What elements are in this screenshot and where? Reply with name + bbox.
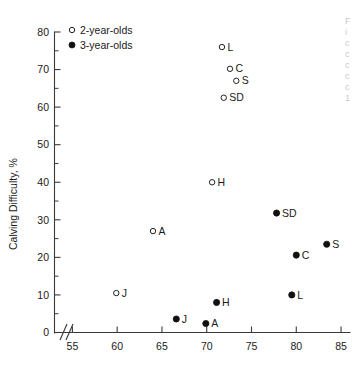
point-3-year-olds-H [213,299,219,305]
calving-difficulty-scatter-chart: 01020304050607080 55606570758085 Calving… [0,0,358,378]
point-label-3-year-olds-L: L [297,289,303,301]
point-2-year-olds-L [219,44,224,49]
x-tick-label-80: 80 [290,340,302,352]
point-label-2-year-olds-L: L [227,41,233,53]
y-tick-label-70: 70 [37,63,49,75]
y-tick-label-60: 60 [37,101,49,113]
y-axis-ticks: 01020304050607080 [37,26,60,339]
point-2-year-olds-C [227,66,232,71]
y-tick-label-20: 20 [37,251,49,263]
point-3-year-olds-S [324,241,330,247]
point-2-year-olds-H [209,180,214,185]
point-label-2-year-olds-J: J [122,287,127,299]
point-label-2-year-olds-SD: SD [229,91,244,103]
point-label-3-year-olds-J: J [182,313,187,325]
series-3-year-olds: SDSCLHJA [173,207,339,329]
y-tick-label-40: 40 [37,176,49,188]
x-tick-label-75: 75 [246,340,258,352]
point-3-year-olds-L [289,292,295,298]
point-2-year-olds-SD [221,95,226,100]
x-tick-label-55: 55 [67,340,79,352]
adjacent-figure-edge-artifact: Ficcccc1 [345,16,357,108]
series-2-year-olds: LCSSDHAJ [114,41,249,299]
scatter-plot-figure: 01020304050607080 55606570758085 Calving… [0,0,358,378]
x-tick-label-70: 70 [201,340,213,352]
point-2-year-olds-S [234,78,239,83]
point-label-3-year-olds-H: H [222,296,230,308]
point-label-2-year-olds-S: S [242,74,249,86]
point-label-2-year-olds-A: A [159,225,166,237]
point-2-year-olds-J [114,290,119,295]
x-axis [55,324,351,340]
y-axis-title: Calving Difficulty, % [7,158,19,250]
point-3-year-olds-J [173,316,179,322]
legend-label-2: 3-year-olds [80,39,133,51]
x-tick-label-60: 60 [111,340,123,352]
point-label-3-year-olds-SD: SD [282,207,297,219]
x-axis-ticks: 55606570758085 [67,327,347,353]
x-tick-label-65: 65 [156,340,168,352]
legend-label-1: 2-year-olds [80,24,133,36]
y-tick-label-50: 50 [37,138,49,150]
point-label-3-year-olds-C: C [302,249,310,261]
y-tick-label-30: 30 [37,214,49,226]
legend-marker-2 [69,42,75,48]
point-3-year-olds-A [203,320,209,326]
point-3-year-olds-C [293,252,299,258]
y-tick-label-80: 80 [37,26,49,38]
point-label-3-year-olds-A: A [211,317,218,329]
y-tick-label-0: 0 [43,326,49,338]
point-label-3-year-olds-S: S [332,238,339,250]
data-series-layer: LCSSDHAJSDSCLHJA [114,41,340,329]
legend-marker-1 [69,27,74,32]
y-tick-label-10: 10 [37,289,49,301]
point-label-2-year-olds-C: C [236,62,244,74]
chart-legend: 2-year-olds3-year-olds [69,24,133,51]
point-3-year-olds-SD [273,210,279,216]
point-label-2-year-olds-H: H [218,176,226,188]
point-2-year-olds-A [150,228,155,233]
x-tick-label-85: 85 [335,340,347,352]
